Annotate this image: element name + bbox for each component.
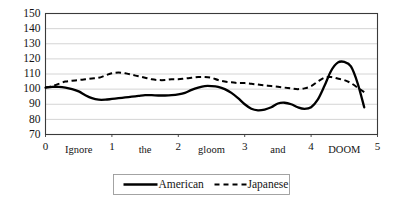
y-axis-tick-label: 150 <box>23 7 41 19</box>
y-axis-tick-label: 100 <box>23 82 41 94</box>
y-axis-tick-label: 70 <box>29 128 41 140</box>
x-axis-annotation: the <box>139 144 152 155</box>
y-axis-tick-label: 130 <box>23 37 41 49</box>
x-axis-annotation: DOOM <box>328 144 361 155</box>
gridlines <box>46 29 378 135</box>
y-axis-tick-label: 110 <box>24 67 41 79</box>
legend-label-japanese: Japanese <box>248 178 289 191</box>
x-axis-tick-label: 5 <box>375 140 381 152</box>
line-chart-svg: 150140130120110100908070 012345 Ignoreth… <box>0 0 404 208</box>
chart-legend: AmericanJapanese <box>114 175 290 195</box>
y-axis-tick-label: 90 <box>29 97 41 109</box>
chart-canvas: 150140130120110100908070 012345 Ignoreth… <box>0 0 404 208</box>
x-axis-tick-label: 3 <box>242 140 248 152</box>
y-axis-tick-label: 140 <box>23 22 41 34</box>
chart-figure: 150140130120110100908070 012345 Ignoreth… <box>0 0 404 208</box>
x-axis-tick-label: 4 <box>308 140 314 152</box>
x-axis-tick-label: 0 <box>43 140 49 152</box>
legend-label-american: American <box>159 178 205 190</box>
x-axis-annotation: and <box>270 144 286 155</box>
x-axis-tick-label: 2 <box>176 140 182 152</box>
y-axis-tick-labels: 150140130120110100908070 <box>23 7 41 140</box>
x-axis-annotation: Ignore <box>65 144 93 155</box>
x-axis-tick-label: 1 <box>109 140 115 152</box>
x-axis-annotation: gloom <box>198 144 225 155</box>
y-axis-tick-label: 80 <box>29 113 41 125</box>
series-line-american <box>46 61 365 110</box>
data-series-layer <box>46 61 365 110</box>
y-axis-tick-label: 120 <box>23 52 41 64</box>
